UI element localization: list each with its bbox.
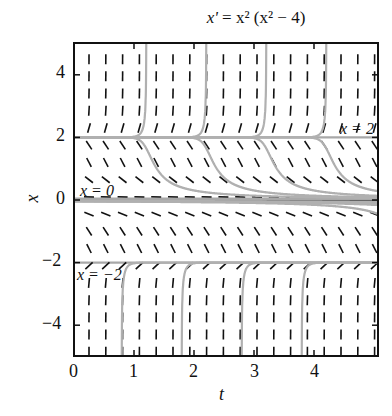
slope-segment [357,278,358,288]
y-axis-label: x [22,195,43,203]
slope-segment [341,278,342,288]
slope-segment [139,278,140,288]
y-tick-label: 2 [56,125,65,146]
slope-segment [288,158,293,167]
slope-segment [270,177,278,183]
slope-segment [221,158,226,167]
slope-segment [272,244,276,253]
slope-segment [286,212,295,216]
slope-segment [322,227,327,235]
slope-segment [154,227,159,235]
slope-segment [255,158,260,167]
slope-segment [339,244,343,253]
slope-segment [372,227,377,235]
slope-segment [307,106,308,116]
slope-segment [121,123,124,133]
slope-segment [240,278,241,288]
slope-segment [221,141,227,149]
slope-segment [103,227,108,235]
x-tick-label: 4 [310,361,319,382]
slope-segment [171,158,176,167]
slope-segment [206,278,207,288]
slope-segment [187,141,193,149]
slope-segment [271,141,277,149]
y-tick-label: 4 [56,62,65,83]
slope-segment [138,123,141,133]
equilibrium-label-x0: x = 0 [80,182,114,200]
solution-curve [254,14,266,137]
slope-segment [204,244,208,253]
slope-segment [219,212,228,216]
slope-segment [289,123,292,133]
x-axis-label: t [219,384,224,405]
slope-segment [204,227,209,235]
slope-segment [374,106,375,116]
slope-segment [188,123,191,133]
slope-segment [374,278,375,288]
slope-segment [188,244,192,253]
slope-segment [255,244,259,253]
slope-segment [372,244,376,253]
slope-segment [137,158,142,167]
slope-segment [322,244,326,253]
slope-segment [338,227,343,235]
slope-segment [187,158,192,167]
slope-segment [103,141,109,149]
slope-segment [303,177,311,183]
slope-segment [236,177,244,183]
solution-curve [251,138,386,196]
slope-segment [320,212,329,216]
slope-segment [221,227,226,235]
slope-segment [172,123,175,133]
slope-segment [305,227,310,235]
slope-segment [118,212,127,216]
slope-segment [356,244,360,253]
slope-segment [84,212,93,216]
slope-segment [156,106,157,116]
x-tick-label: 3 [250,361,259,382]
slope-segment [288,141,294,149]
slope-segment [305,158,310,167]
slope-segment [120,141,126,149]
slope-segment [120,244,124,253]
slope-segment [171,244,175,253]
slope-segment [187,227,192,235]
slope-segment [153,141,159,149]
slope-segment [173,106,174,116]
equilibrium-label-x2: x = 2 [340,120,374,138]
title-eq: = [218,8,236,27]
slope-segment [252,212,261,216]
slope-segment [288,227,293,235]
slope-segment [338,141,344,149]
slope-segment [306,123,309,133]
slope-segment [170,227,175,235]
slope-segment [322,158,327,167]
slope-segment [372,158,377,167]
slope-segment [88,123,91,133]
slope-segment [238,227,243,235]
y-tick-label: −2 [42,250,61,271]
slope-segment [240,106,241,116]
slope-segment [253,177,261,183]
slope-segment [120,227,125,235]
slope-segment [104,244,108,253]
slope-segment [273,278,274,288]
slope-segment [173,278,174,288]
slope-segment [324,278,325,288]
slope-segment [358,106,359,116]
slope-segment [341,106,342,116]
slope-segment [86,227,91,235]
slope-segment [223,278,224,288]
slope-segment [256,123,259,133]
slope-segment [221,244,225,253]
slope-segment [269,212,278,216]
slope-segment [137,244,141,253]
slope-segment [290,278,291,288]
slope-segment [372,141,378,149]
slope-segment [152,212,161,216]
slope-segment [305,244,309,253]
chart-title: x' = x² (x² − 4) [146,8,366,28]
slope-segment [355,158,360,167]
slope-segment [354,177,362,183]
slope-segment [87,244,91,253]
